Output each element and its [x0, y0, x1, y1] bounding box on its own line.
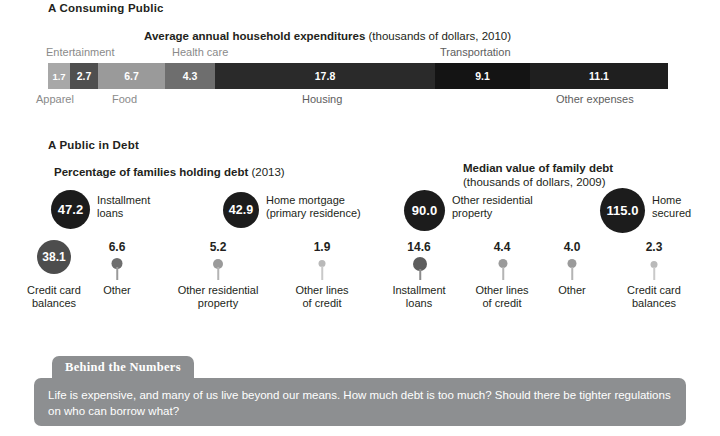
- pin-value-credit-card-balances-median: 2.3: [610, 240, 698, 254]
- bar-label-transportation: Transportation: [440, 46, 511, 58]
- pin-marker-other-residential-property-pct[interactable]: [208, 259, 228, 280]
- infographic-page: A Consuming Public Average annual househ…: [0, 0, 720, 436]
- label-line-1: Home: [652, 194, 681, 206]
- bar-label-health-care: Health care: [172, 46, 228, 58]
- pin-marker-other-lines-of-credit-pct[interactable]: [312, 260, 332, 280]
- median-chart-title: Median value of family debt (thousands o…: [463, 162, 613, 189]
- bar-label-entertainment: Entertainment: [46, 46, 114, 58]
- bubble-other-residential-property-median[interactable]: 90.0: [404, 190, 445, 231]
- bubble-home-mortgage-pct[interactable]: 42.9: [223, 192, 259, 228]
- section-b-heading: A Public in Debt: [48, 139, 139, 151]
- pin-value-other-median: 4.0: [541, 240, 603, 254]
- bubble-credit-card-balances-pct[interactable]: 38.1: [37, 240, 71, 274]
- label-line-1: Installment: [97, 194, 150, 206]
- pin-value-other-lines-of-credit-pct: 1.9: [282, 240, 362, 254]
- label-line-1: Other: [558, 284, 586, 296]
- expenditures-stacked-bar: 1.7 2.7 6.7 4.3 17.8 9.1 11.1: [48, 63, 668, 89]
- label-line-2: balances: [32, 297, 76, 309]
- bar-label-apparel: Apparel: [36, 93, 74, 105]
- label-line-1: Credit card: [27, 284, 81, 296]
- pin-value-other-lines-of-credit-median: 4.4: [466, 240, 538, 254]
- bar-chart-title-sub: (thousands of dollars, 2010): [365, 30, 511, 42]
- median-chart-title-bold: Median value of family debt: [463, 162, 613, 176]
- pin-label-other-pct: Other: [92, 284, 142, 297]
- bar-segment-apparel[interactable]: 1.7: [48, 63, 70, 89]
- bubble-label-other-residential-property-median: Other residential property: [452, 194, 533, 220]
- label-line-1: Installment: [392, 284, 445, 296]
- behind-the-numbers-tab[interactable]: Behind the Numbers: [52, 356, 194, 378]
- percent-chart-title-bold: Percentage of families holding debt: [54, 166, 248, 178]
- label-line-1: Other residential: [452, 194, 533, 206]
- label-line-1: Other residential: [178, 284, 259, 296]
- bubble-label-credit-card-balances-pct: Credit card balances: [6, 284, 102, 310]
- bubble-label-home-secured-median: Home secured: [652, 194, 691, 220]
- label-line-2: (primary residence): [266, 207, 361, 219]
- pin-marker-installment-loans-median[interactable]: [409, 257, 431, 280]
- label-line-2: loans: [406, 297, 432, 309]
- pin-label-other-lines-of-credit-median: Other lines of credit: [466, 284, 538, 310]
- label-line-1: Home mortgage: [266, 194, 345, 206]
- bar-segment-other-expenses[interactable]: 11.1: [530, 63, 668, 89]
- label-line-1: Other lines: [295, 284, 348, 296]
- pin-marker-other-pct[interactable]: [107, 258, 127, 280]
- bar-chart-title: Average annual household expenditures (t…: [144, 30, 511, 42]
- bar-segment-transportation[interactable]: 9.1: [435, 63, 530, 89]
- label-line-2: balances: [632, 297, 676, 309]
- label-line-2: of credit: [482, 297, 521, 309]
- bar-segment-housing[interactable]: 17.8: [215, 63, 435, 89]
- label-line-2: property: [452, 207, 492, 219]
- median-chart-title-sub: (thousands of dollars, 2009): [463, 176, 613, 190]
- bar-segment-entertainment[interactable]: 2.7: [70, 63, 98, 89]
- pin-value-other-pct: 6.6: [92, 240, 142, 254]
- label-line-1: Other lines: [475, 284, 528, 296]
- bubble-home-secured-median[interactable]: 115.0: [600, 188, 645, 233]
- bubble-label-home-mortgage-pct: Home mortgage (primary residence): [266, 194, 361, 220]
- percent-chart-title: Percentage of families holding debt (201…: [54, 166, 285, 178]
- pin-marker-other-lines-of-credit-median[interactable]: [493, 259, 513, 280]
- section-a-heading: A Consuming Public: [48, 2, 164, 14]
- pin-label-other-lines-of-credit-pct: Other lines of credit: [282, 284, 362, 310]
- pin-marker-other-median[interactable]: [562, 259, 582, 280]
- bubble-label-installment-loans-pct: Installment loans: [97, 194, 150, 220]
- pin-label-credit-card-balances-median: Credit card balances: [610, 284, 698, 310]
- label-line-2: secured: [652, 207, 691, 219]
- bubble-installment-loans-pct[interactable]: 47.2: [51, 190, 90, 229]
- bar-label-food: Food: [112, 93, 137, 105]
- pin-marker-credit-card-balances-median[interactable]: [644, 261, 664, 280]
- bar-segment-food[interactable]: 6.7: [98, 63, 165, 89]
- label-line-2: loans: [97, 207, 123, 219]
- bar-segment-health-care[interactable]: 4.3: [165, 63, 215, 89]
- label-line-2: of credit: [302, 297, 341, 309]
- percent-chart-title-sub: (2013): [248, 166, 284, 178]
- pin-label-installment-loans-median: Installment loans: [383, 284, 455, 310]
- bar-label-housing: Housing: [302, 93, 342, 105]
- pin-value-installment-loans-median: 14.6: [383, 240, 455, 254]
- bar-chart-title-bold: Average annual household expenditures: [144, 30, 365, 42]
- bar-label-other-expenses: Other expenses: [556, 93, 634, 105]
- pin-label-other-residential-property-pct: Other residential property: [156, 284, 280, 310]
- behind-the-numbers-body: Life is expensive, and many of us live b…: [34, 378, 686, 426]
- label-line-1: Other: [103, 284, 131, 296]
- label-line-1: Credit card: [627, 284, 681, 296]
- pin-label-other-median: Other: [541, 284, 603, 297]
- label-line-2: property: [198, 297, 238, 309]
- pin-value-other-residential-property-pct: 5.2: [162, 240, 274, 254]
